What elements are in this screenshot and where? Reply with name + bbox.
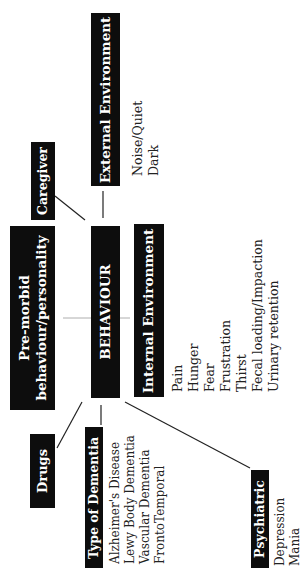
internal-environment-label: Internal Environment [141,228,157,392]
premorbid-box: Pre-morbid behaviour/personality [10,226,55,410]
external-environment-label: External Environment [98,16,114,183]
premorbid-label-line2: behaviour/personality [33,235,50,400]
list-item: Fecal loading/Impaction [250,239,266,392]
psychiatric-box: Psychiatric [251,470,269,568]
list-item: Vascular Dementia [138,435,153,564]
behaviour-center-box: BEHAVIOUR [91,226,120,398]
list-item: Urinary retention [266,239,282,392]
list-item: Mania [288,498,303,566]
psychiatric-list: Depression Mania [273,498,303,566]
list-item: Alzheimer's Disease [108,435,123,564]
premorbid-label-line1: Pre-morbid [16,235,33,400]
list-item: Depression [273,498,288,566]
type-of-dementia-list: Alzheimer's Disease Lewy Body Dementia V… [108,435,168,564]
psychiatric-label: Psychiatric [253,480,267,558]
external-environment-box: External Environment [91,13,120,186]
internal-environment-list: Pain Hunger Fear Frustration Thirst Feca… [170,239,282,392]
drugs-box: Drugs [30,434,55,508]
list-item: Noise/Quiet [130,101,146,176]
list-item: Thirst [234,239,250,392]
drugs-label: Drugs [35,449,50,493]
list-item: FrontoTemporal [153,435,168,564]
type-of-dementia-box: Type of Dementia [85,427,103,568]
caregiver-box: Caregiver [31,142,55,220]
behaviour-label: BEHAVIOUR [98,264,114,360]
external-environment-list: Noise/Quiet Dark [130,101,162,176]
internal-environment-box: Internal Environment [134,224,164,397]
list-item: Pain [170,239,186,392]
list-item: Fear [202,239,218,392]
list-item: Dark [146,101,162,176]
list-item: Lewy Body Dementia [123,435,138,564]
caregiver-label: Caregiver [36,147,50,215]
list-item: Hunger [186,239,202,392]
list-item: Frustration [218,239,234,392]
type-of-dementia-label: Type of Dementia [87,437,101,559]
